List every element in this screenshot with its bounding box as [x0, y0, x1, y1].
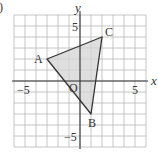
x-tick-label: −5: [17, 83, 30, 97]
x-axis-label: x: [150, 73, 157, 88]
coordinate-plane: xyO−555−5ABC): [0, 0, 158, 157]
axes: [12, 11, 148, 149]
coordinate-figure: xyO−555−5ABC): [0, 0, 158, 157]
y-axis-label: y: [73, 0, 81, 15]
y-tick-label: 5: [72, 20, 78, 34]
y-tick-label: −5: [64, 130, 77, 144]
x-tick-label: 5: [132, 83, 138, 97]
origin-label: O: [69, 81, 78, 95]
item-marker: ): [0, 0, 3, 14]
vertex-label-b: B: [88, 116, 96, 130]
triangle-abc: [47, 37, 102, 114]
vertex-label-a: A: [34, 52, 43, 66]
vertex-label-c: C: [105, 25, 113, 39]
